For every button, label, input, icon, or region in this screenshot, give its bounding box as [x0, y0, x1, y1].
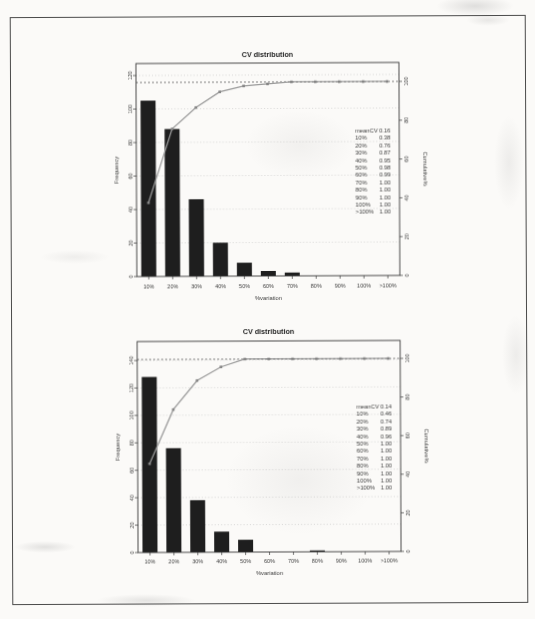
left-tick-label: 0 — [128, 275, 134, 278]
left-tick-label: 140 — [128, 356, 134, 365]
legend-row-label: 50% — [357, 441, 369, 447]
legend-row-label: 60% — [357, 448, 369, 454]
x-tick-label: >100% — [379, 282, 396, 288]
x-tick-label: 10% — [143, 283, 154, 289]
cumulative-marker-100% — [363, 357, 366, 360]
legend-row-label: 100% — [356, 202, 371, 208]
legend-header-value: 0.16 — [379, 127, 390, 133]
cumulative-marker-10% — [148, 462, 151, 465]
gridline — [136, 108, 399, 109]
chart-1: 02040608010012002040608010010%20%30%40%5… — [113, 49, 429, 301]
right-axis-title: Cumulative% — [422, 152, 428, 186]
scan-content: 02040608010012002040608010010%20%30%40%5… — [0, 0, 535, 619]
legend-row-value: 0.98 — [379, 164, 390, 170]
x-tick-label: 40% — [215, 283, 226, 289]
legend-row-value: 1.00 — [381, 455, 392, 461]
left-tick-label: 20 — [129, 522, 135, 528]
cumulative-marker-100% — [362, 80, 365, 83]
frequency-bar-60% — [261, 271, 276, 276]
x-tick-label: 60% — [264, 558, 275, 564]
right-tick-label: 100 — [403, 77, 409, 86]
left-tick-label: 100 — [127, 104, 133, 113]
left-tick-label: 40 — [129, 495, 135, 501]
cumulative-marker-40% — [218, 91, 221, 94]
right-tick-label: 20 — [405, 510, 411, 516]
legend-row-label: 30% — [355, 150, 367, 156]
cumulative-marker-50% — [242, 85, 245, 88]
right-tick-label: 40 — [404, 195, 410, 201]
legend-row-label: 20% — [356, 418, 368, 424]
legend-row-value: 1.00 — [379, 179, 390, 185]
cumulative-marker-80% — [314, 80, 317, 83]
cumulative-marker-50% — [244, 358, 247, 361]
right-tick-label: 100 — [404, 354, 410, 363]
legend-row-value: 0.74 — [380, 418, 392, 424]
legend-row-value: 0.95 — [379, 157, 390, 163]
x-tick-label: 50% — [240, 558, 251, 564]
left-tick-label: 100 — [128, 411, 134, 420]
legend-row-label: >100% — [357, 485, 375, 491]
legend-row-value: 0.46 — [380, 411, 391, 417]
left-tick-label: 120 — [127, 71, 133, 80]
cumulative-line — [149, 358, 389, 463]
chart-2: 02040608010012014002040608010010%20%30%4… — [114, 326, 430, 576]
legend-row-value: 1.00 — [379, 187, 390, 193]
legend-header-label: meanCV — [356, 404, 379, 410]
frequency-bar-40% — [214, 532, 229, 553]
cumulative-marker-70% — [290, 81, 293, 84]
legend-row-value: 1.00 — [381, 477, 392, 483]
legend-row-label: 20% — [355, 142, 367, 148]
legend-row-value: 0.99 — [379, 172, 390, 178]
gridline — [136, 74, 399, 75]
x-tick-label: 90% — [335, 283, 346, 289]
cumulative-marker-30% — [196, 379, 199, 382]
legend-row-label: 40% — [355, 157, 367, 163]
left-tick-label: 60 — [127, 173, 133, 179]
cv-distribution-charts-canvas: 02040608010012002040608010010%20%30%40%5… — [0, 0, 535, 619]
left-tick-label: 60 — [129, 467, 135, 473]
legend-row-value: 1.00 — [379, 194, 390, 200]
left-tick-label: 80 — [127, 140, 133, 146]
gridline — [137, 387, 400, 388]
right-tick-label: 80 — [404, 394, 410, 400]
chart-title: CV distribution — [242, 50, 294, 59]
scanned-figure-page: 02040608010012002040608010010%20%30%40%5… — [0, 0, 535, 619]
x-tick-label: 40% — [216, 558, 227, 564]
legend-row-value: 1.00 — [381, 485, 392, 491]
legend-row-value: 1.00 — [381, 448, 392, 454]
x-tick-label: 50% — [239, 283, 250, 289]
legend-row-label: 100% — [357, 478, 372, 484]
cumulative-marker-90% — [339, 357, 342, 360]
frequency-bar-70% — [285, 273, 300, 276]
frequency-bar-10% — [141, 101, 157, 277]
cumulative-marker-60% — [266, 83, 269, 86]
right-tick-label: 0 — [405, 550, 411, 553]
frequency-bar-30% — [190, 500, 205, 552]
legend-row-label: 10% — [355, 135, 367, 141]
legend-row-label: 40% — [357, 433, 369, 439]
cumulative-marker-60% — [267, 358, 270, 361]
cumulative-marker->100% — [386, 80, 389, 83]
x-tick-label: 10% — [145, 558, 156, 564]
left-tick-label: 0 — [129, 551, 135, 554]
legend-row-label: 90% — [357, 470, 369, 476]
legend-row-label: 80% — [357, 463, 369, 469]
chart-title: CV distribution — [243, 327, 295, 336]
x-tick-label: 90% — [336, 558, 347, 564]
cumulative-marker-90% — [338, 80, 341, 83]
x-tick-label: 30% — [191, 283, 202, 289]
legend-row-label: 60% — [355, 172, 367, 178]
x-axis-title: %variation — [255, 295, 282, 301]
cumulative-marker-10% — [147, 201, 150, 204]
frequency-bar-50% — [237, 263, 252, 276]
left-tick-label: 120 — [128, 383, 134, 392]
legend-row-label: 70% — [355, 179, 367, 185]
x-tick-label: 100% — [358, 558, 372, 564]
x-tick-label: 80% — [311, 283, 322, 289]
legend-row-label: 80% — [355, 187, 367, 193]
legend-row-label: 30% — [357, 426, 369, 432]
legend-row-value: 0.89 — [381, 426, 392, 432]
legend-row-value: 0.76 — [379, 142, 390, 148]
x-tick-label: >100% — [380, 557, 397, 563]
legend-row-label: 90% — [355, 194, 367, 200]
